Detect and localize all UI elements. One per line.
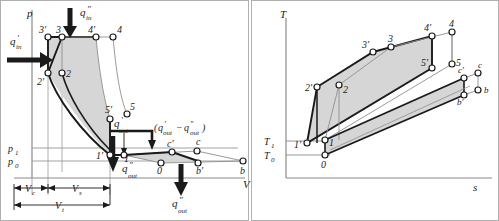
ts-temp-tick-t0-sub: 0 [271, 156, 275, 164]
ts-point-4prime [429, 33, 435, 39]
pv-point-label-1prime: 1′ [96, 150, 104, 161]
pv-point-label-0: 0 [157, 165, 162, 176]
pv-point-label-3: 3 [55, 24, 61, 35]
pv-label-qout-bottom-prime: ″ [179, 195, 183, 205]
pv-qdiff-minus: − [176, 122, 183, 133]
pv-y-axis-label: p [26, 7, 33, 19]
pv-label-qin-double-sub: in [86, 14, 92, 22]
ts-point-b [475, 87, 481, 93]
pv-point-label-2prime: 2′ [37, 76, 45, 87]
ts-temp-tick-t1-sub: 1 [271, 142, 275, 150]
pv-label-qout-single-sub: out [119, 127, 129, 135]
pv-point-label-b: b [240, 165, 245, 176]
ts-point-5prime [429, 65, 435, 71]
pv-pressure-tick-p0-sub: 0 [15, 162, 19, 170]
ts-point-1prime [304, 140, 310, 146]
pv-point-5prime [107, 116, 113, 122]
pv-pressure-tick-p1-sub: 1 [15, 149, 19, 157]
ts-point-3prime [370, 49, 376, 55]
ts-point-label-3: 3 [387, 33, 393, 44]
pv-panel-border [1, 1, 249, 221]
ts-point-label-1prime: 1′ [294, 139, 302, 150]
ts-point-label-4prime: 4′ [424, 22, 432, 33]
pv-label-qin-double-prime: ″ [87, 4, 91, 14]
pv-point-label-c: c [196, 136, 201, 147]
pv-point-label-5prime: 5′ [105, 104, 113, 115]
pv-qdiff-close-paren: ) [201, 122, 206, 134]
ts-point-4 [449, 29, 455, 35]
pv-point-label-5: 5 [130, 101, 135, 112]
ts-point-label-cprime: c′ [458, 65, 465, 75]
pv-point-label-4: 4 [117, 24, 122, 35]
figure-canvas: p V p 1 p 0 q ′ in q ″ in q ′ out q ″ [0, 0, 499, 221]
thermodynamic-diagram-svg: p V p 1 p 0 q ′ in q ″ in q ′ out q ″ [0, 0, 499, 221]
pv-label-qin-single-sub: in [16, 43, 22, 51]
ts-point-label-b: b [484, 85, 489, 95]
pv-x-axis-label: V [243, 178, 251, 190]
pv-point-b [240, 158, 246, 164]
pv-point-1prime [107, 152, 113, 158]
pv-label-qout-double-sub: out [128, 172, 138, 180]
ts-point-2 [336, 82, 342, 88]
ts-point-3 [388, 44, 394, 50]
pv-qdiff-prime1: ′ [164, 120, 166, 129]
ts-y-axis-label: T [280, 8, 287, 20]
ts-point-label-bprime: b′ [457, 97, 465, 107]
pv-dim-label-vs-sub: s [79, 189, 82, 197]
pv-qdiff-sub1: out [163, 129, 173, 137]
pv-label-qout-bottom-sub: out [178, 207, 188, 215]
ts-point-label-c: c [478, 60, 482, 70]
ts-x-axis-label: s [473, 181, 477, 193]
ts-point-label-3prime: 3′ [361, 39, 370, 50]
pv-point-2 [59, 70, 65, 76]
ts-point-0 [322, 152, 328, 158]
pv-point-2prime [45, 70, 51, 76]
ts-point-label-4: 4 [449, 18, 454, 29]
ts-point-1 [322, 137, 328, 143]
ts-point-2prime [314, 84, 320, 90]
pv-point-label-4prime: 4′ [88, 24, 96, 35]
ts-point-c [475, 70, 481, 76]
ts-point-label-2prime: 2′ [305, 82, 313, 93]
pv-label-qout-double-prime: ″ [129, 160, 133, 170]
pv-pressure-tick-p0-base: p [7, 156, 13, 167]
ts-point-label-2: 2 [343, 84, 348, 95]
pv-point-label-1: 1 [124, 153, 129, 164]
ts-point-5 [449, 61, 455, 67]
pv-point-label-2: 2 [66, 68, 71, 79]
pv-point-label-bprime: b′ [196, 165, 204, 176]
pv-point-label-3prime: 3′ [38, 24, 47, 35]
ts-point-label-1: 1 [329, 137, 334, 148]
pv-point-4 [110, 34, 116, 40]
pv-point-c [194, 148, 200, 154]
pv-pressure-tick-p1-base: p [7, 143, 13, 154]
pv-point-cprime [169, 149, 175, 155]
pv-point-label-cprime: c′ [167, 138, 174, 149]
ts-point-label-0: 0 [321, 159, 326, 170]
ts-point-label-5prime: 5′ [421, 57, 429, 68]
pv-qdiff-q2: q [184, 122, 189, 133]
ts-point-cprime [461, 75, 467, 81]
